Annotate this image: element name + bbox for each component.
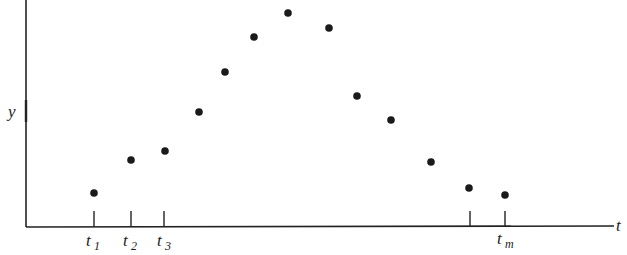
data-point	[465, 184, 473, 192]
data-point	[161, 147, 169, 155]
data-point	[501, 191, 509, 199]
data-point	[284, 9, 292, 17]
data-points	[90, 9, 509, 199]
data-point	[325, 24, 333, 32]
tick-label-tm: t m	[497, 229, 514, 251]
svg-text:t: t	[86, 231, 92, 250]
tick-label-t1: t 1	[86, 231, 100, 253]
svg-text:t: t	[157, 231, 163, 250]
y-axis-label: y	[6, 102, 16, 121]
svg-text:m: m	[505, 237, 514, 251]
x-axis	[26, 226, 614, 227]
data-point	[387, 116, 395, 124]
svg-text:1: 1	[94, 239, 100, 253]
svg-text:3: 3	[164, 239, 171, 253]
tick-label-t2: t 2	[123, 231, 137, 253]
data-point	[353, 92, 361, 100]
data-point	[195, 108, 203, 116]
svg-text:t: t	[497, 229, 503, 248]
data-point	[250, 33, 258, 41]
svg-text:t: t	[123, 231, 129, 250]
data-point	[90, 189, 98, 197]
x-ticks	[94, 211, 505, 227]
data-point	[127, 156, 135, 164]
data-point	[221, 68, 229, 76]
x-axis-label: t	[616, 216, 622, 235]
scatter-chart: y t t 1 t 2 t 3 t m	[0, 0, 627, 255]
svg-text:2: 2	[131, 239, 137, 253]
tick-label-t3: t 3	[157, 231, 171, 253]
data-point	[427, 158, 435, 166]
